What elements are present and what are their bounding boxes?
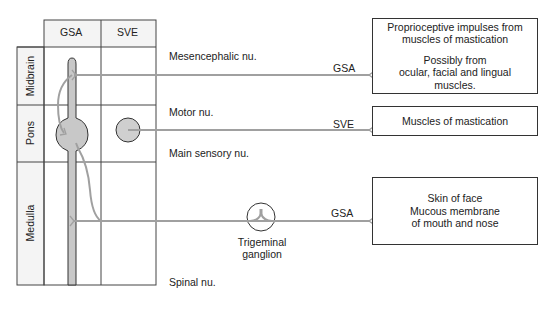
pathway-label-gsa-ganglion: GSA — [331, 207, 353, 219]
ganglion-label: Trigeminal ganglion — [235, 236, 289, 260]
row-label-medulla: Medulla — [24, 198, 36, 248]
row-label-midbrain: Midbrain — [24, 51, 36, 101]
label-mesencephalic-nucleus: Mesencephalic nu. — [169, 50, 257, 62]
label-spinal-nucleus: Spinal nu. — [169, 276, 216, 288]
label-main-sensory-nucleus: Main sensory nu. — [169, 147, 249, 159]
label-motor-nucleus: Motor nu. — [169, 106, 213, 118]
trigeminal-ganglion-icon — [247, 203, 275, 231]
target-box-skin-mucosa: Skin of face Mucous membrane of mouth an… — [372, 177, 538, 245]
target-box-mastication: Muscles of mastication — [372, 106, 538, 136]
row-label-pons: Pons — [24, 108, 36, 158]
target-box-proprioceptive: Proprioceptive impulses from muscles of … — [372, 18, 538, 94]
pathway-label-gsa-mesencephalic: GSA — [333, 62, 355, 74]
column-header-gsa: GSA — [60, 26, 82, 38]
column-header-sve: SVE — [117, 26, 138, 38]
pathway-label-sve-motor: SVE — [333, 118, 354, 130]
